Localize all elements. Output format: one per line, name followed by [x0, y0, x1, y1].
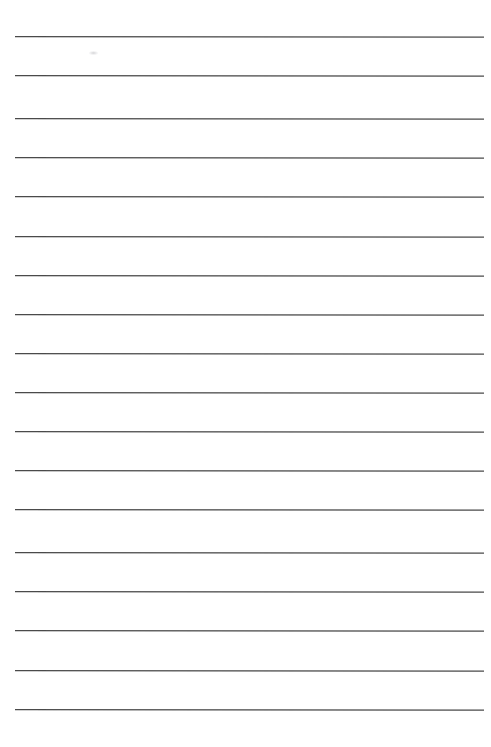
- rule-line: [15, 470, 484, 471]
- rule-line: [15, 392, 484, 393]
- ruling-area: [0, 0, 491, 747]
- rule-line: [15, 509, 484, 510]
- rule-line: [15, 670, 484, 671]
- rule-line: [15, 275, 484, 276]
- rule-line: [15, 630, 484, 631]
- rule-line: [15, 314, 484, 315]
- rule-line: [15, 75, 484, 76]
- rule-line: [15, 552, 484, 553]
- rule-line: [15, 709, 484, 710]
- rule-line: [15, 236, 484, 237]
- rule-line: [15, 118, 484, 119]
- rule-line: [15, 591, 484, 592]
- rule-line: [15, 431, 484, 432]
- rule-line: [15, 157, 484, 158]
- ruled-paper-sheet: [0, 0, 491, 747]
- rule-line: [15, 196, 484, 197]
- rule-line: [15, 353, 484, 354]
- rule-line: [15, 36, 484, 37]
